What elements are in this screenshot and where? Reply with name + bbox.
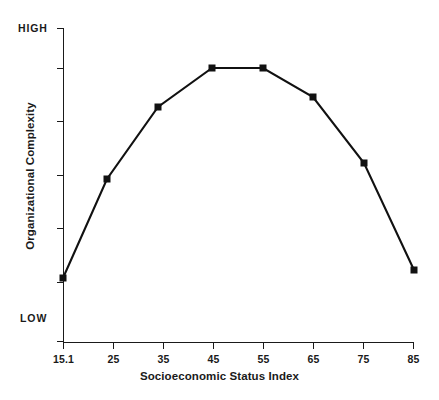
chart-figure: HIGH LOW 15.1 25 35 45 55 65 75 85 Socio… [0,0,439,400]
data-point-marker [361,160,368,167]
data-point-marker [209,65,216,72]
y-axis-ticks [57,29,63,342]
x-tick-label-75: 75 [338,353,389,365]
data-point-marker [260,65,267,72]
series-markers [60,65,418,282]
y-axis-high-label: HIGH [18,22,48,34]
data-point-marker [104,176,111,183]
data-point-marker [60,275,67,282]
x-tick-label-45: 45 [188,353,239,365]
x-tick-label-55: 55 [238,353,289,365]
y-axis-low-label: LOW [20,312,47,324]
data-point-marker [310,94,317,101]
y-axis-title: Organizational Complexity [24,76,36,276]
x-axis-title: Socioeconomic Status Index [0,370,439,382]
x-tick-label-65: 65 [288,353,339,365]
series-line-organizational-complexity [63,68,414,278]
x-tick-label-35: 35 [138,353,189,365]
line-chart-canvas [0,0,439,400]
x-tick-label-85: 85 [388,353,439,365]
x-tick-label-25: 25 [88,353,139,365]
data-point-marker [155,104,162,111]
x-tick-label-15-1: 15.1 [38,353,89,365]
data-point-marker [411,267,418,274]
